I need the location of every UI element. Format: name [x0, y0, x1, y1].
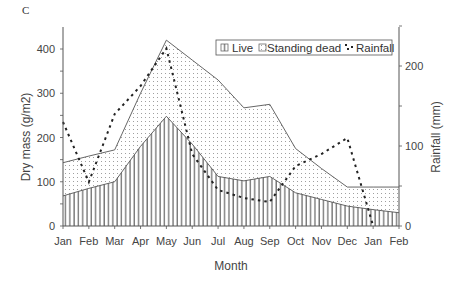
dead-swatch-icon — [259, 44, 266, 51]
y-tick-label: 200 — [37, 132, 55, 144]
y-tick-label: 400 — [37, 43, 55, 55]
legend-live: Live — [232, 42, 253, 54]
x-tick-label: Jan — [364, 235, 382, 247]
y-tick-label: 0 — [49, 220, 55, 232]
x-tick-label: Apr — [132, 235, 149, 247]
x-tick-label: Jan — [54, 235, 72, 247]
y-axis-ticks: 0100200300400 — [37, 43, 63, 232]
x-tick-label: Jun — [183, 235, 201, 247]
x-tick-label: Nov — [312, 235, 332, 247]
legend-standing-dead: Standing dead — [267, 42, 341, 54]
chart: JanFebMarAprMayJunJulAugSepOctNovDecJanF… — [0, 0, 460, 281]
x-tick-label: Sep — [260, 235, 280, 247]
x-axis-ticks: JanFebMarAprMayJunJulAugSepOctNovDecJanF… — [54, 226, 408, 247]
x-tick-label: Jul — [211, 235, 225, 247]
y2-axis-ticks: 0100200 — [399, 26, 423, 232]
y-tick-label: 100 — [37, 176, 55, 188]
x-tick-label: Feb — [79, 235, 98, 247]
y-tick-label: 300 — [37, 87, 55, 99]
y-axis-title: Dry mass (g/m2) — [19, 93, 33, 182]
x-tick-label: Feb — [390, 235, 409, 247]
y2-tick-label: 200 — [405, 60, 423, 72]
legend: Live Standing dead Rainfall — [216, 40, 394, 55]
x-tick-label: Dec — [338, 235, 358, 247]
x-tick-label: Oct — [287, 235, 304, 247]
x-tick-label: Mar — [105, 235, 124, 247]
y2-tick-label: 0 — [405, 220, 411, 232]
live-swatch-icon — [221, 44, 228, 51]
x-axis-title: Month — [214, 259, 247, 273]
legend-rainfall: Rainfall — [356, 42, 394, 54]
x-tick-label: Aug — [234, 235, 254, 247]
y2-axis-title: Rainfall (mm) — [429, 101, 443, 172]
y2-tick-label: 100 — [405, 140, 423, 152]
x-tick-label: May — [156, 235, 177, 247]
